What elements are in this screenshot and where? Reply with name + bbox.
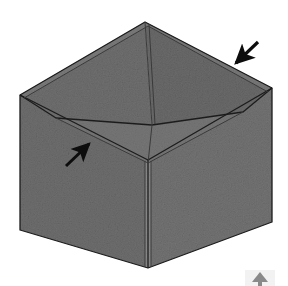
cropped-arrow-artifact-bottom-right (245, 270, 275, 286)
box-illustration (0, 0, 288, 286)
figure-canvas: Isometric grey open cardboard box with t… (0, 0, 288, 286)
